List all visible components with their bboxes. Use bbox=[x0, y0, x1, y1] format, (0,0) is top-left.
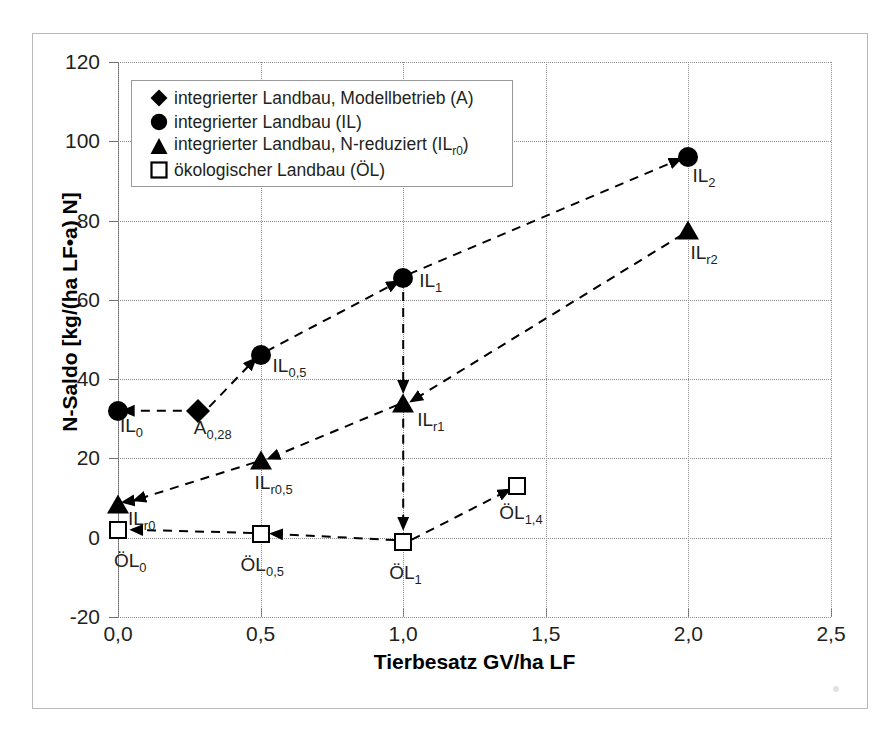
x-tick-label-1,5: 1,5 bbox=[506, 622, 586, 646]
point-label-sub: 1 bbox=[415, 571, 422, 586]
y-tick-label-60: 60 bbox=[20, 288, 100, 312]
point-label-ILr1: ILr1 bbox=[417, 409, 444, 434]
point-label-ÖL1,4: ÖL1,4 bbox=[499, 502, 542, 527]
y-tick-40 bbox=[109, 379, 118, 380]
point-label-main: ÖL bbox=[499, 502, 524, 523]
legend-label-il-reduziert-main: integrierter Landbau, N-reduziert (IL bbox=[174, 134, 452, 154]
x-tick-label-1,0: 1,0 bbox=[363, 622, 443, 646]
gridline-y--20 bbox=[118, 617, 831, 618]
y-tick-20 bbox=[109, 458, 118, 459]
point-label-sub: 0,5 bbox=[288, 365, 306, 380]
square-marker-icon bbox=[144, 161, 174, 179]
point-label-main: IL bbox=[690, 242, 706, 263]
point-label-sub: r0,5 bbox=[270, 482, 292, 497]
y-tick-60 bbox=[109, 300, 118, 301]
point-label-main: IL bbox=[120, 415, 136, 436]
legend-item-il-reduziert: integrierter Landbau, N-reduziert (ILr0) bbox=[132, 134, 512, 158]
data-marker-square bbox=[252, 525, 270, 543]
point-label-sub: 1,4 bbox=[525, 512, 543, 527]
legend-label-oekologisch: ökologischer Landbau (ÖL) bbox=[174, 160, 385, 181]
point-label-sub: r0 bbox=[144, 518, 155, 533]
data-marker-circle bbox=[251, 345, 271, 365]
legend-item-modellbetrieb: integrierter Landbau, Modellbetrieb (A) bbox=[132, 86, 512, 110]
data-marker-circle bbox=[678, 147, 698, 167]
x-tick-label-0,0: 0,0 bbox=[78, 622, 158, 646]
triangle-marker-icon bbox=[144, 137, 174, 155]
data-marker-triangle bbox=[250, 451, 272, 470]
data-marker-triangle bbox=[107, 495, 129, 514]
y-tick-label-80: 80 bbox=[20, 209, 100, 233]
y-tick-80 bbox=[109, 221, 118, 222]
data-marker-square bbox=[109, 521, 127, 539]
point-label-main: IL bbox=[273, 355, 289, 376]
data-marker-circle bbox=[393, 268, 413, 288]
point-label-IL2: IL2 bbox=[692, 165, 715, 190]
x-tick-label-2,5: 2,5 bbox=[791, 622, 871, 646]
y-tick-label-120: 120 bbox=[20, 50, 100, 74]
y-tick-label-100: 100 bbox=[20, 129, 100, 153]
x-tick-label-2,0: 2,0 bbox=[648, 622, 728, 646]
connector-1 bbox=[209, 359, 255, 407]
point-label-main: A bbox=[194, 417, 207, 438]
y-tick-label-20: 20 bbox=[20, 446, 100, 470]
point-label-ILr0,5: ILr0,5 bbox=[255, 472, 293, 497]
y-tick--20 bbox=[109, 617, 118, 618]
legend-box: integrierter Landbau, Modellbetrieb (A) … bbox=[131, 80, 513, 187]
connector-5 bbox=[135, 462, 255, 500]
point-label-sub: 0 bbox=[136, 425, 143, 440]
point-label-ÖL1: ÖL1 bbox=[389, 562, 422, 587]
x-tick-label-0,5: 0,5 bbox=[221, 622, 301, 646]
connector-12 bbox=[412, 490, 509, 540]
legend-label-il-reduziert-sub: r0 bbox=[452, 144, 463, 158]
point-label-main: IL bbox=[255, 472, 271, 493]
data-marker-square bbox=[394, 533, 412, 551]
connector-11 bbox=[272, 534, 395, 540]
data-marker-square bbox=[508, 477, 526, 495]
point-label-main: IL bbox=[692, 165, 708, 186]
legend-item-il: integrierter Landbau (IL) bbox=[132, 110, 512, 134]
point-label-IL0,5: IL0,5 bbox=[273, 355, 307, 380]
legend-label-modellbetrieb: integrierter Landbau, Modellbetrieb (A) bbox=[174, 88, 474, 109]
chart-page: N-Saldo [kg/(ha LF•a) N] Tierbesatz GV/h… bbox=[0, 0, 892, 734]
point-label-A0,28: A0,28 bbox=[194, 417, 232, 442]
point-label-sub: 0,5 bbox=[266, 564, 284, 579]
point-label-sub: r2 bbox=[706, 252, 717, 267]
point-label-ÖL0: ÖL0 bbox=[114, 550, 147, 575]
legend-label-il-reduziert: integrierter Landbau, N-reduziert (ILr0) bbox=[174, 134, 469, 158]
diamond-marker-icon bbox=[144, 89, 174, 107]
point-label-sub: r1 bbox=[433, 419, 444, 434]
point-label-main: IL bbox=[419, 270, 435, 291]
legend-label-il: integrierter Landbau (IL) bbox=[174, 112, 362, 133]
point-label-main: IL bbox=[417, 409, 433, 430]
point-label-main: ÖL bbox=[241, 554, 266, 575]
connector-7 bbox=[412, 234, 683, 401]
point-label-ÖL0,5: ÖL0,5 bbox=[241, 554, 284, 579]
point-label-main: IL bbox=[128, 508, 144, 529]
data-marker-triangle bbox=[392, 393, 414, 412]
point-label-sub: 0 bbox=[139, 560, 146, 575]
y-tick-100 bbox=[109, 141, 118, 142]
legend-item-oekologisch: ökologischer Landbau (ÖL) bbox=[132, 158, 512, 182]
point-label-IL1: IL1 bbox=[419, 270, 442, 295]
y-tick-label-40: 40 bbox=[20, 367, 100, 391]
point-label-sub: 1 bbox=[435, 280, 442, 295]
legend-label-il-reduziert-end: ) bbox=[463, 134, 469, 154]
y-tick-label-0: 0 bbox=[20, 526, 100, 550]
scan-speck bbox=[833, 686, 839, 692]
point-label-main: ÖL bbox=[389, 562, 414, 583]
x-axis-title: Tierbesatz GV/ha LF bbox=[118, 650, 831, 674]
gridline-x-2.5 bbox=[831, 62, 832, 617]
point-label-sub: 2 bbox=[708, 175, 715, 190]
point-label-sub: 0,28 bbox=[207, 427, 232, 442]
y-tick-120 bbox=[109, 62, 118, 63]
connector-2 bbox=[266, 282, 397, 351]
connector-6 bbox=[269, 405, 397, 459]
point-label-IL0: IL0 bbox=[120, 415, 143, 440]
circle-marker-icon bbox=[144, 113, 174, 131]
point-label-ILr0: ILr0 bbox=[128, 508, 155, 533]
point-label-main: ÖL bbox=[114, 550, 139, 571]
y-axis-title-wrapper: N-Saldo [kg/(ha LF•a) N] bbox=[48, 0, 78, 660]
point-label-ILr2: ILr2 bbox=[690, 242, 717, 267]
data-marker-triangle bbox=[677, 221, 699, 240]
